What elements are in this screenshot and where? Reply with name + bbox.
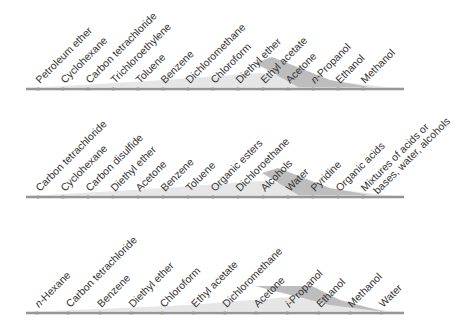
axis-tick — [362, 88, 364, 91]
axis-tick — [255, 312, 257, 315]
axis-tick — [312, 88, 314, 91]
axis-tick — [62, 88, 64, 91]
axis-tick — [87, 196, 89, 199]
axis-tick — [212, 196, 214, 199]
eluotropic-series-diagram: Petroleum etherCyclohexaneCarbon tetrach… — [0, 0, 476, 336]
axis-tick — [262, 88, 264, 91]
solvent-label: Methanol — [358, 46, 397, 85]
axis-tick — [192, 312, 194, 315]
axis-tick — [37, 88, 39, 91]
axis-tick — [87, 88, 89, 91]
axis-tick — [62, 196, 64, 199]
solvent-scale-3: n-HexaneCarbon tetrachlorideBenzeneDieth… — [26, 234, 405, 315]
axis-tick — [162, 88, 164, 91]
axis-tick — [212, 88, 214, 91]
axis-tick — [112, 88, 114, 91]
axis-tick — [337, 88, 339, 91]
solvent-scale-1: Petroleum etherCyclohexaneCarbon tetrach… — [26, 10, 404, 91]
solvent-label: Water — [376, 281, 404, 309]
solvent-scale-2: Carbon tetrachlorideCyclohexaneCarbon di… — [26, 107, 452, 201]
axis-tick — [187, 88, 189, 91]
axis-tick — [362, 196, 364, 199]
axis-tick — [137, 88, 139, 91]
axis-tick — [318, 312, 320, 315]
axis-tick — [112, 196, 114, 199]
axis-tick — [187, 196, 189, 199]
axis-tick — [349, 312, 351, 315]
axis-tick — [137, 196, 139, 199]
axis-tick — [287, 88, 289, 91]
axis-tick — [162, 196, 164, 199]
axis-tick — [380, 312, 382, 315]
axis-tick — [286, 312, 288, 315]
axis-tick — [67, 312, 69, 315]
axis-tick — [224, 312, 226, 315]
axis-tick — [287, 196, 289, 199]
axis-tick — [36, 312, 38, 315]
axis-tick — [237, 196, 239, 199]
axis-tick — [161, 312, 163, 315]
axis-tick — [262, 196, 264, 199]
axis-tick — [130, 312, 132, 315]
axis-tick — [37, 196, 39, 199]
axis-tick — [312, 196, 314, 199]
axis-tick — [237, 88, 239, 91]
axis-tick — [337, 196, 339, 199]
axis-tick — [98, 312, 100, 315]
